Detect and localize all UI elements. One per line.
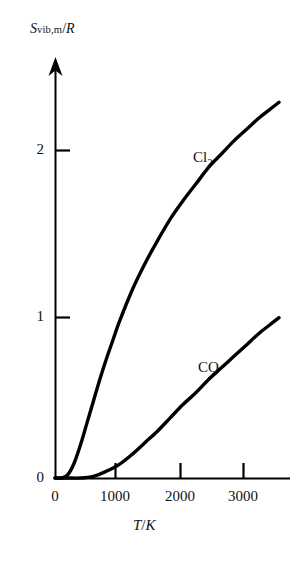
series-curve-co [55,318,279,478]
y-axis-ticks [55,151,70,318]
series-label-co: CO [198,360,219,375]
y-axis-title-symbol: S [30,21,37,36]
y-axis-title: Svib,m/R [30,22,75,36]
y-axis-title-denominator: R [66,21,75,36]
x-tick-label-0: 0 [48,489,62,504]
chart-plot-area [0,0,302,561]
x-tick-label-2000: 2000 [155,489,205,504]
x-tick-label-3000: 3000 [218,489,268,504]
series-label-cl2: Cl2 [193,150,213,168]
y-tick-label-0: 0 [22,470,44,485]
series-label-cl2-subscript: 2 [207,156,213,168]
chart-figure: Svib,m/R T/K 2 1 0 0 1000 2000 3000 Cl2 … [0,0,302,561]
x-axis-title-denominator: K [146,517,156,533]
y-axis [49,57,63,478]
x-axis-title: T/K [133,518,156,533]
series-label-cl2-main: Cl [193,149,207,165]
y-tick-label-2: 2 [22,142,44,157]
x-axis-ticks [116,463,244,478]
y-axis-title-subscript: vib,m [37,24,62,35]
x-tick-label-1000: 1000 [90,489,140,504]
y-tick-label-1: 1 [22,309,44,324]
data-series-group [55,102,279,478]
